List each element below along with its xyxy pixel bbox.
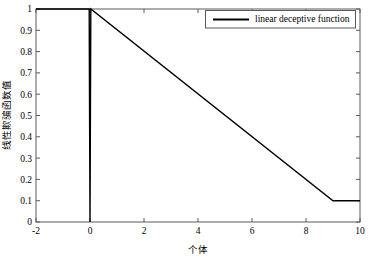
x-tick-label: 6 xyxy=(250,226,255,236)
plot-area-background xyxy=(36,9,360,222)
x-tick-label: 0 xyxy=(88,226,93,236)
x-tick-label: 2 xyxy=(142,226,147,236)
y-tick-label: 0.7 xyxy=(20,68,32,78)
chart-figure: 00.10.20.30.40.50.60.70.80.91 -20246810 … xyxy=(0,0,370,263)
y-tick-label: 0.5 xyxy=(20,111,32,121)
y-axis-title: 线性欺骗函数值 xyxy=(1,80,12,150)
x-tick-label: 8 xyxy=(304,226,309,236)
x-tick-label: 4 xyxy=(196,226,201,236)
x-axis-title: 个体 xyxy=(188,244,208,255)
y-tick-label: 0.3 xyxy=(20,154,32,164)
y-tick-label: 0.2 xyxy=(20,175,32,185)
y-tick-label: 1 xyxy=(27,4,32,14)
y-tick-label: 0.4 xyxy=(20,132,32,142)
linear-deceptive-function-chart: 00.10.20.30.40.50.60.70.80.91 -20246810 … xyxy=(0,0,370,263)
legend-label: linear deceptive function xyxy=(255,14,350,24)
chart-legend[interactable]: linear deceptive function xyxy=(206,11,356,29)
y-tick-label: 0.8 xyxy=(20,47,32,57)
y-tick-label: 0.6 xyxy=(20,90,32,100)
x-tick-label: -2 xyxy=(32,226,40,236)
y-tick-label: 0.9 xyxy=(20,26,32,36)
x-tick-label: 10 xyxy=(355,226,365,236)
y-tick-label: 0.1 xyxy=(20,196,32,206)
